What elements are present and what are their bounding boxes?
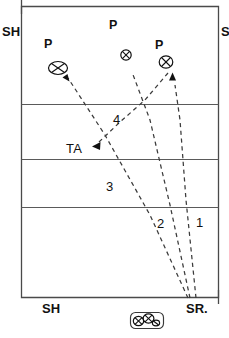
arrowhead-group [63, 73, 177, 151]
label-player-p-right: P [155, 38, 163, 52]
label-player-p-left: P [44, 37, 52, 51]
arrowhead-to-target-area [92, 142, 101, 150]
target-area-label: TA [66, 141, 82, 156]
court-diagram-svg: SH S SH SR. P P P 4 3 2 1 TA [0, 0, 229, 338]
zone-label-2: 2 [157, 216, 164, 231]
zone-label-1: 1 [196, 215, 203, 230]
label-sh-top-left: SH [2, 24, 20, 39]
trajectory-group [68, 72, 196, 298]
label-sr-bottom-right: SR. [186, 301, 208, 316]
arrowhead-to-left-marker [63, 74, 70, 82]
arrowhead-to-right-marker [169, 73, 176, 81]
zone-label-4: 4 [113, 112, 120, 127]
label-sh-bottom-left: SH [42, 301, 60, 316]
label-player-p-top-center: P [109, 18, 117, 32]
ball-marker-center [121, 50, 131, 60]
diagram-canvas: SH S SH SR. P P P 4 3 2 1 TA [0, 0, 229, 338]
ball-marker-left [49, 62, 68, 75]
bench-marker-small [152, 320, 159, 326]
ball-marker-right [159, 56, 173, 68]
trajectory-3 [68, 78, 188, 298]
label-s-top-right: S [221, 24, 229, 39]
bench-marker-small-x1 [153, 321, 158, 325]
zone-label-3: 3 [106, 179, 113, 194]
bench-box [131, 313, 164, 329]
bench-marker-a [133, 316, 143, 325]
trajectory-1 [175, 85, 196, 298]
trajectory-2 [132, 72, 190, 298]
trajectory-4 [98, 73, 168, 143]
